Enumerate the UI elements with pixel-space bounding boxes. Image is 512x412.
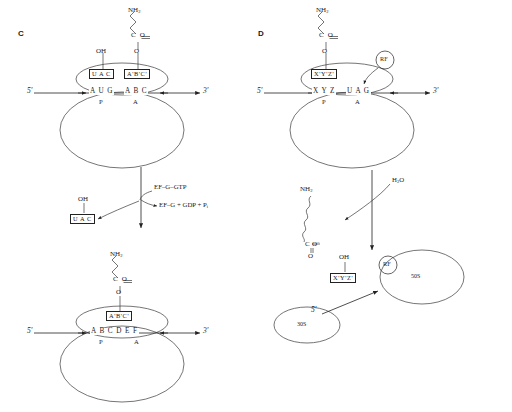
mrna-codon-p-site-c1: A U G [89, 88, 114, 95]
trna-anticodon-p-site-c1: U A C [89, 69, 114, 79]
diagram-vector-layer [0, 0, 512, 412]
small-subunit-label-30s: 30S [297, 321, 306, 327]
water-label-d: H2O [392, 177, 404, 184]
release-factor-label-d2: RF [383, 261, 391, 267]
p-site-trna-hydroxyl-c1: OH [96, 48, 106, 55]
peptide-amine-group-d1: NH2 [316, 7, 328, 14]
mrna-3-prime-c2: 3' [203, 327, 208, 335]
ester-oxygen-c2: O [116, 289, 121, 296]
a-site-label-d1: A [355, 99, 360, 106]
mrna-5-prime-d2: 5' [311, 306, 316, 314]
a-site-label-c2: A [134, 339, 139, 346]
peptide-carbonyl-c1: C=O [131, 32, 145, 39]
peptide-carbonyl-d1: C=O [319, 32, 333, 39]
peptide-amine-group-c1: NH2 [128, 7, 140, 14]
mrna-codon-p-site-d1: X Y Z [312, 88, 336, 95]
p-site-label-d1: P [322, 99, 326, 106]
a-site-label-c1: A [133, 99, 138, 106]
ester-oxygen-c1: O [134, 48, 139, 55]
mrna-codon-a-site-c1: A B C [124, 88, 148, 95]
mrna-stop-codon-a-site-d1: U A G [346, 88, 371, 95]
released-trna-anticodon-d: X'Y'Z' [330, 273, 356, 283]
released-polypeptide-carbonyl-oxygen-d: O [308, 253, 313, 260]
ester-oxygen-d1: O [322, 48, 327, 55]
figure-canvas: C NH2 C=O O OH U A C A'B'C' 5' 3' A U G … [0, 0, 512, 412]
mrna-3-prime-d1: 3' [433, 87, 438, 95]
ef-g-gdp-pi-label: EF–G + GDP + Pi [159, 202, 208, 209]
mrna-3-prime-c1: 3' [203, 87, 208, 95]
trna-anticodon-p-site-c2: A'B'C' [106, 311, 132, 321]
released-trna-hydroxyl-d: OH [339, 254, 349, 261]
released-polypeptide-amine-d: NH2 [300, 186, 312, 193]
mrna-codons-c2: A B C D E F [90, 328, 139, 335]
peptide-carbonyl-c2: C=O [113, 276, 127, 283]
mrna-5-prime-c2: 5' [27, 327, 32, 335]
p-site-label-c1: P [99, 99, 103, 106]
panel-letter-d: D [258, 30, 264, 38]
trna-anticodon-p-site-d1: X'Y'Z' [311, 69, 337, 79]
large-subunit-label-50s: 50S [411, 273, 420, 279]
peptide-amine-group-c2: NH2 [110, 251, 122, 258]
released-trna-hydroxyl-c: OH [78, 196, 88, 203]
trna-anticodon-a-site-c1: A'B'C' [124, 69, 150, 79]
ef-g-gtp-label: EF–G–GTP [154, 184, 186, 191]
p-site-label-c2: P [99, 339, 103, 346]
released-polypeptide-carboxylate-d: C-O− [305, 240, 320, 248]
mrna-5-prime-c1: 5' [27, 87, 32, 95]
release-factor-label-d1: RF [380, 56, 388, 62]
mrna-5-prime-d1: 5' [257, 87, 262, 95]
released-trna-anticodon-c: U A C [70, 214, 95, 224]
panel-letter-c: C [18, 30, 24, 38]
